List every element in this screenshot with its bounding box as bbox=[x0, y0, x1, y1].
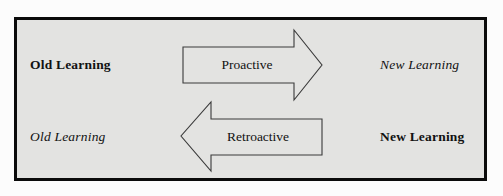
interference-diagram: Old Learning Proactive New Learning Old … bbox=[0, 0, 503, 196]
label-old-learning-top: Old Learning bbox=[30, 58, 111, 72]
label-new-learning-top: New Learning bbox=[380, 58, 459, 72]
arrow-layer bbox=[0, 0, 503, 196]
label-proactive: Proactive bbox=[222, 58, 273, 72]
label-new-learning-bottom: New Learning bbox=[380, 130, 465, 144]
label-retroactive: Retroactive bbox=[227, 130, 289, 144]
label-old-learning-bottom: Old Learning bbox=[30, 130, 106, 144]
